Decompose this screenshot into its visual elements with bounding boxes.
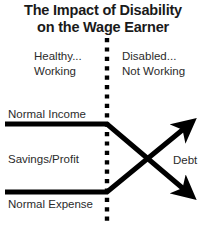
disability-impact-diagram: The Impact of Disability on the Wage Ear…	[0, 0, 206, 231]
label-debt: Debt	[173, 153, 197, 167]
label-normal-income: Normal Income	[8, 107, 86, 121]
label-savings-profit: Savings/Profit	[8, 152, 79, 166]
label-normal-expense: Normal Expense	[8, 197, 93, 211]
